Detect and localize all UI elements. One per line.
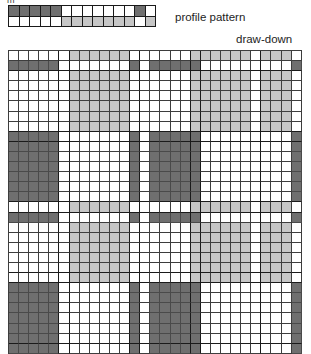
profile-cell <box>93 6 104 17</box>
profile-cell <box>9 17 20 28</box>
draw-down-cell <box>171 172 181 182</box>
profile-cell <box>30 6 41 17</box>
draw-down-cell <box>160 283 170 293</box>
draw-down-cell <box>49 51 59 61</box>
draw-down-cell <box>241 162 251 172</box>
draw-down-cell <box>150 303 160 313</box>
draw-down-cell <box>39 132 49 142</box>
draw-down-cell <box>120 91 130 101</box>
draw-down-cell <box>261 101 271 111</box>
draw-down-cell <box>140 344 150 354</box>
draw-down-cell <box>150 192 160 202</box>
draw-down-cell <box>261 152 271 162</box>
draw-down-cell <box>100 51 110 61</box>
draw-down-cell <box>90 273 100 283</box>
draw-down-cell <box>39 71 49 81</box>
draw-down-cell <box>191 344 201 354</box>
draw-down-cell <box>59 303 69 313</box>
draw-down-cell <box>19 273 29 283</box>
draw-down-cell <box>282 81 292 91</box>
draw-down-cell <box>261 132 271 142</box>
draw-down-cell <box>90 61 100 71</box>
draw-down-cell <box>19 324 29 334</box>
draw-down-cell <box>70 263 80 273</box>
draw-down-cell <box>150 273 160 283</box>
draw-down-cell <box>221 162 231 172</box>
draw-down-cell <box>70 202 80 212</box>
draw-down-cell <box>221 283 231 293</box>
draw-down-cell <box>251 172 261 182</box>
draw-down-cell <box>29 223 39 233</box>
draw-down-cell <box>160 223 170 233</box>
draw-down-cell <box>241 253 251 263</box>
draw-down-cell <box>59 122 69 132</box>
draw-down-cell <box>201 243 211 253</box>
draw-down-cell <box>130 51 140 61</box>
draw-down-cell <box>70 223 80 233</box>
draw-down-cell <box>150 243 160 253</box>
draw-down-cell <box>282 51 292 61</box>
draw-down-cell <box>9 344 19 354</box>
draw-down-cell <box>39 182 49 192</box>
draw-down-cell <box>39 223 49 233</box>
draw-down-cell <box>130 223 140 233</box>
draw-down-cell <box>292 303 302 313</box>
draw-down-cell <box>9 71 19 81</box>
draw-down-cell <box>100 273 110 283</box>
draw-down-cell <box>49 182 59 192</box>
draw-down-cell <box>130 182 140 192</box>
profile-cell <box>20 17 31 28</box>
draw-down-cell <box>261 324 271 334</box>
draw-down-cell <box>29 61 39 71</box>
draw-down-cell <box>90 172 100 182</box>
draw-down-cell <box>261 253 271 263</box>
draw-down-cell <box>130 101 140 111</box>
draw-down-cell <box>100 213 110 223</box>
draw-down-cell <box>120 213 130 223</box>
draw-down-cell <box>221 192 231 202</box>
draw-down-cell <box>201 303 211 313</box>
draw-down-cell <box>110 213 120 223</box>
draw-down-cell <box>140 293 150 303</box>
draw-down-cell <box>19 283 29 293</box>
profile-cell <box>114 6 125 17</box>
draw-down-cell <box>19 293 29 303</box>
draw-down-cell <box>140 273 150 283</box>
draw-down-cell <box>80 334 90 344</box>
draw-down-cell <box>70 303 80 313</box>
draw-down-cell <box>70 122 80 132</box>
draw-down-cell <box>201 91 211 101</box>
draw-down-cell <box>292 192 302 202</box>
draw-down-cell <box>130 324 140 334</box>
draw-down-cell <box>221 142 231 152</box>
draw-down-cell <box>110 132 120 142</box>
draw-down-cell <box>221 273 231 283</box>
draw-down-cell <box>201 122 211 132</box>
draw-down-cell <box>120 313 130 323</box>
draw-down-cell <box>221 344 231 354</box>
draw-down-cell <box>221 334 231 344</box>
draw-down-cell <box>201 71 211 81</box>
draw-down-cell <box>140 202 150 212</box>
draw-down-cell <box>261 233 271 243</box>
draw-down-cell <box>160 91 170 101</box>
draw-down-cell <box>140 132 150 142</box>
draw-down-cell <box>292 223 302 233</box>
draw-down-cell <box>9 283 19 293</box>
draw-down-cell <box>171 132 181 142</box>
draw-down-cell <box>59 283 69 293</box>
profile-cell <box>135 17 146 28</box>
draw-down-cell <box>181 101 191 111</box>
draw-down-cell <box>292 283 302 293</box>
draw-down-cell <box>292 162 302 172</box>
draw-down-cell <box>59 81 69 91</box>
draw-down-cell <box>80 223 90 233</box>
draw-down-cell <box>271 213 281 223</box>
draw-down-cell <box>39 303 49 313</box>
profile-cell <box>72 17 83 28</box>
draw-down-cell <box>100 253 110 263</box>
draw-down-cell <box>120 81 130 91</box>
draw-down-cell <box>100 243 110 253</box>
draw-down-cell <box>90 152 100 162</box>
draw-down-cell <box>100 192 110 202</box>
